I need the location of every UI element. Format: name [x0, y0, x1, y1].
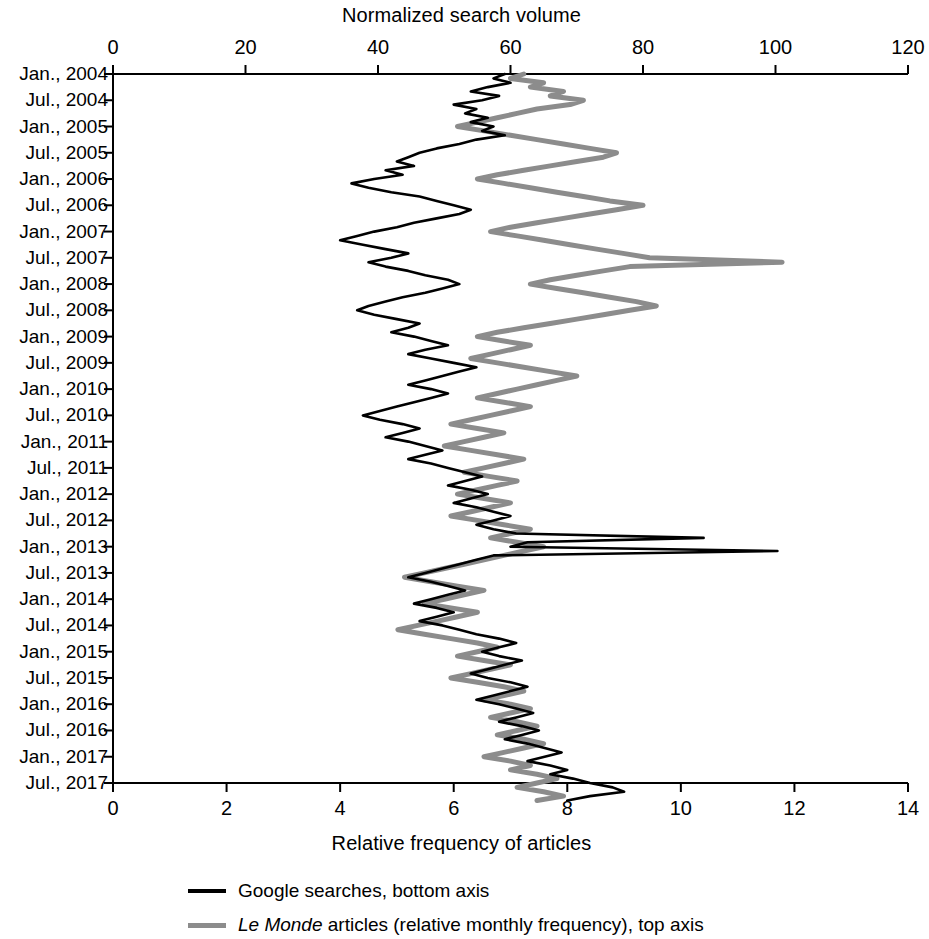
chart-legend: Google searches, bottom axis Le Monde ar… — [188, 876, 908, 939]
bottom-axis-tick-label: 14 — [868, 797, 929, 820]
legend-swatch-google-line — [188, 889, 226, 893]
top-axis-tick-label: 40 — [338, 36, 418, 59]
legend-label-lemonde: Le Monde articles (relative monthly freq… — [238, 914, 704, 936]
legend-label-lemonde-italic: Le Monde — [238, 914, 323, 935]
y-axis-tick-label: Jan., 2005 — [0, 117, 108, 137]
y-axis-tick-label: Jul., 2016 — [0, 720, 108, 740]
bottom-axis-tick-label: 10 — [641, 797, 721, 820]
bottom-axis-title: Relative frequency of articles — [0, 832, 923, 855]
y-axis-tick-label: Jan., 2014 — [0, 589, 108, 609]
y-axis-tick-label: Jan., 2012 — [0, 484, 108, 504]
bottom-axis-tick-label: 12 — [754, 797, 834, 820]
bottom-axis-tick-label: 6 — [414, 797, 494, 820]
legend-swatch-lemonde-line — [188, 923, 226, 928]
y-axis-tick-label: Jul., 2006 — [0, 195, 108, 215]
top-axis-tick-label: 60 — [471, 36, 551, 59]
y-axis-tick-label: Jul., 2004 — [0, 90, 108, 110]
y-axis-tick-label: Jul., 2008 — [0, 300, 108, 320]
y-axis-tick-label: Jan., 2016 — [0, 694, 108, 714]
bottom-axis-tick-label: 8 — [527, 797, 607, 820]
y-axis-tick-label: Jul., 2015 — [0, 668, 108, 688]
y-axis-tick-label: Jan., 2004 — [0, 64, 108, 84]
bottom-axis-tick-label: 2 — [187, 797, 267, 820]
y-axis-tick-label: Jan., 2011 — [0, 432, 108, 452]
y-axis-tick-label: Jan., 2009 — [0, 327, 108, 347]
y-axis-tick-label: Jan., 2017 — [0, 747, 108, 767]
y-axis-tick-label: Jul., 2017 — [0, 773, 108, 793]
top-axis-tick-label: 80 — [603, 36, 683, 59]
y-axis-tick-label: Jul., 2007 — [0, 248, 108, 268]
top-axis-tick-label: 20 — [206, 36, 286, 59]
y-axis-tick-label: Jul., 2009 — [0, 353, 108, 373]
y-axis-tick-label: Jan., 2008 — [0, 274, 108, 294]
legend-item-lemonde: Le Monde articles (relative monthly freq… — [188, 910, 908, 939]
top-axis-tick-label: 120 — [868, 36, 929, 59]
y-axis-tick-label: Jul., 2014 — [0, 615, 108, 635]
top-axis-tick-label: 100 — [736, 36, 816, 59]
y-axis-tick-label: Jan., 2007 — [0, 222, 108, 242]
series-line-lemonde — [398, 74, 782, 801]
y-axis-tick-label: Jul., 2012 — [0, 510, 108, 530]
y-axis-tick-label: Jul., 2010 — [0, 405, 108, 425]
bottom-axis-tick-label: 4 — [300, 797, 380, 820]
y-axis-tick-label: Jan., 2015 — [0, 642, 108, 662]
y-axis-tick-label: Jul., 2005 — [0, 143, 108, 163]
y-axis-tick-label: Jul., 2013 — [0, 563, 108, 583]
bottom-axis-tick-label: 0 — [73, 797, 153, 820]
top-axis-tick-label: 0 — [73, 36, 153, 59]
legend-item-google: Google searches, bottom axis — [188, 876, 908, 906]
y-axis-tick-label: Jan., 2010 — [0, 379, 108, 399]
series-line-google — [340, 74, 777, 801]
legend-label-lemonde-rest: articles (relative monthly frequency), t… — [323, 914, 704, 935]
legend-label-google: Google searches, bottom axis — [238, 880, 489, 902]
y-axis-tick-label: Jan., 2013 — [0, 537, 108, 557]
y-axis-tick-label: Jul., 2011 — [0, 458, 108, 478]
y-axis-tick-label: Jan., 2006 — [0, 169, 108, 189]
